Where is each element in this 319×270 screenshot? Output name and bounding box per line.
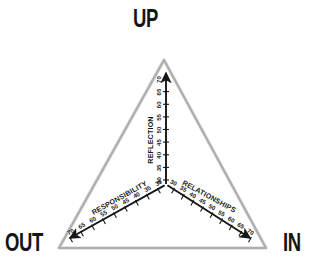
tick-reflection-2: 40 xyxy=(155,151,162,158)
diagram-canvas: 30 35 40 45 50 55 60 65 70 REFLECTION 30… xyxy=(0,0,319,270)
tick-relationships-7: 65 xyxy=(236,221,246,231)
tick-relationships-0: 30 xyxy=(169,178,179,188)
tick-reflection-3: 45 xyxy=(155,139,162,146)
axis-relationships: 30 35 40 45 50 55 60 65 70 RELATIONSHIPS xyxy=(167,178,255,243)
tick-reflection-5: 55 xyxy=(155,113,162,120)
corner-label-in: IN xyxy=(283,230,301,255)
tick-reflection-6: 60 xyxy=(155,101,162,108)
axis-title-reflection: REFLECTION xyxy=(146,116,155,163)
tick-reflection-7: 65 xyxy=(155,88,162,95)
tick-reflection-8: 70 xyxy=(155,76,162,83)
corner-label-up: UP xyxy=(133,6,158,31)
tick-reflection-1: 35 xyxy=(155,164,162,171)
tick-relationships-6: 60 xyxy=(227,215,237,225)
triangle-axis-diagram: 30 35 40 45 50 55 60 65 70 REFLECTION 30… xyxy=(0,0,319,270)
corner-label-out: OUT xyxy=(5,230,43,255)
tick-reflection-4: 50 xyxy=(155,126,162,133)
